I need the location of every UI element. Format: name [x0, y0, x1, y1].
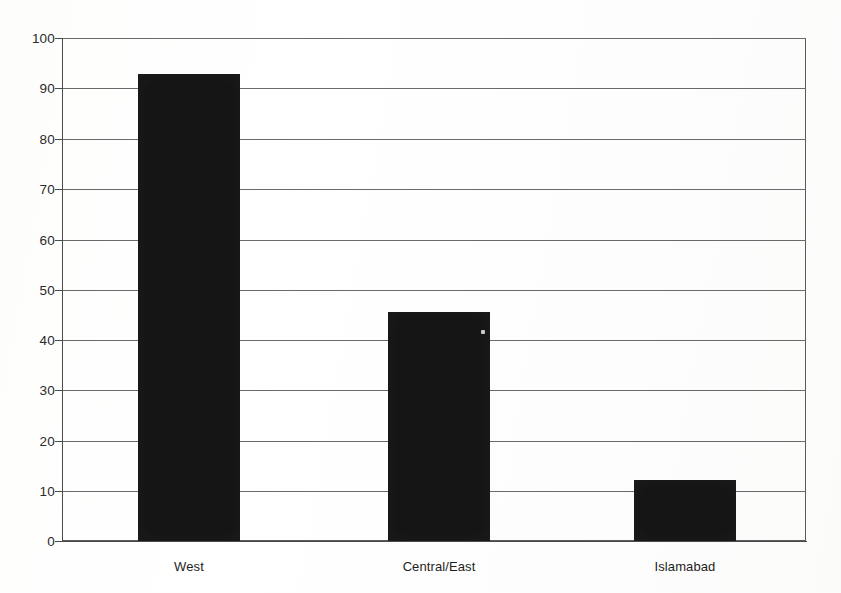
- y-axis-label-20: 20: [11, 435, 55, 449]
- y-axis-line: [62, 38, 63, 542]
- y-axis-label-40: 40: [11, 334, 55, 348]
- y-axis-label-100: 100: [11, 32, 55, 46]
- y-tick-mark-80: [55, 139, 62, 140]
- bar-islamabad[interactable]: [634, 480, 736, 541]
- bar-central-east[interactable]: [388, 312, 490, 541]
- y-axis-label-10: 10: [11, 485, 55, 499]
- y-tick-mark-100: [55, 38, 62, 39]
- bar-chart: 100 90 80 70 60 50 40 30 20 10 0 West Ce…: [0, 0, 841, 593]
- y-tick-mark-90: [55, 88, 62, 89]
- x-axis-label-islamabad: Islamabad: [615, 560, 755, 573]
- y-axis-label-70: 70: [11, 183, 55, 197]
- scan-speck: [481, 330, 485, 334]
- y-axis-label-50: 50: [11, 284, 55, 298]
- y-axis-tick-labels: 100 90 80 70 60 50 40 30 20 10 0: [0, 0, 55, 593]
- y-axis-label-80: 80: [11, 133, 55, 147]
- y-axis-label-60: 60: [11, 234, 55, 248]
- gridline-100: [62, 38, 806, 39]
- y-tick-mark-10: [55, 491, 62, 492]
- y-axis-label-30: 30: [11, 384, 55, 398]
- x-axis-label-west: West: [119, 560, 259, 573]
- y-tick-mark-20: [55, 441, 62, 442]
- y-tick-mark-0: [55, 541, 62, 542]
- y-tick-mark-50: [55, 290, 62, 291]
- y-tick-mark-70: [55, 189, 62, 190]
- bar-west[interactable]: [138, 74, 240, 541]
- x-axis-label-central-east: Central/East: [369, 560, 509, 573]
- y-axis-label-90: 90: [11, 82, 55, 96]
- y-tick-mark-60: [55, 240, 62, 241]
- x-axis-line: [62, 541, 807, 542]
- y-axis-label-0: 0: [11, 535, 55, 549]
- chart-page: 100 90 80 70 60 50 40 30 20 10 0 West Ce…: [0, 0, 841, 593]
- y-tick-mark-40: [55, 340, 62, 341]
- y-tick-mark-30: [55, 390, 62, 391]
